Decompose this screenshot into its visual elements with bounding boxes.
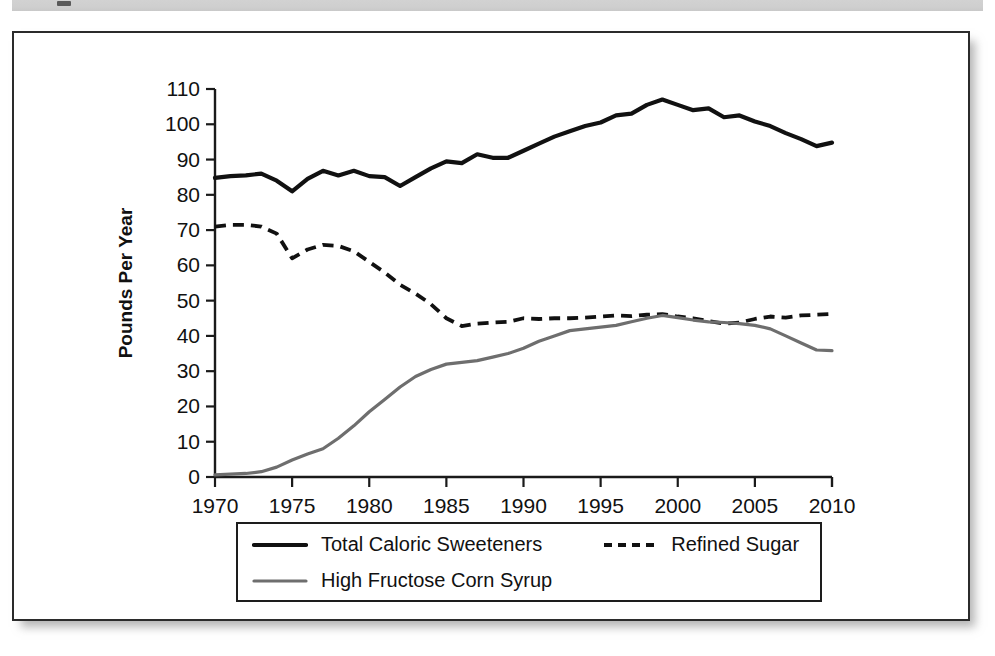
legend-label-high-fructose-corn-syrup: High Fructose Corn Syrup — [321, 569, 552, 592]
legend-row-bottom: High Fructose Corn Syrup — [252, 569, 552, 592]
x-tick-label: 2010 — [809, 494, 856, 517]
y-tick-label: 70 — [177, 218, 200, 241]
x-tick-label: 1975 — [269, 494, 316, 517]
cut-off-header-band — [12, 0, 983, 11]
legend-row-top: Total Caloric Sweeteners Refined Sugar — [252, 533, 799, 556]
x-tick-label: 1970 — [192, 494, 239, 517]
gray-line-icon — [252, 574, 308, 588]
y-tick-label: 50 — [177, 289, 200, 312]
y-tick-label: 110 — [167, 77, 200, 100]
series-line-high-fructose-corn-syrup — [215, 315, 832, 474]
legend-entry-high-fructose-corn-syrup[interactable]: High Fructose Corn Syrup — [252, 569, 552, 592]
header-band-mark — [57, 1, 71, 6]
y-tick-label: 0 — [188, 465, 200, 488]
y-tick-label: 10 — [177, 430, 200, 453]
x-tick-label: 2005 — [732, 494, 779, 517]
chart-legend: Total Caloric Sweeteners Refined Sugar H… — [236, 522, 822, 602]
legend-entry-total-caloric-sweeteners[interactable]: Total Caloric Sweeteners — [252, 533, 542, 556]
legend-entry-refined-sugar[interactable]: Refined Sugar — [602, 533, 799, 556]
x-tick-label: 1990 — [500, 494, 547, 517]
y-tick-label: 40 — [177, 324, 200, 347]
x-tick-label: 1995 — [577, 494, 624, 517]
series-line-total-caloric-sweeteners — [215, 100, 832, 192]
solid-line-icon — [252, 538, 308, 552]
dashed-line-icon — [602, 538, 658, 552]
x-tick-label: 1980 — [346, 494, 393, 517]
y-tick-label: 80 — [177, 183, 200, 206]
axes-group — [215, 89, 832, 477]
y-tick-label: 100 — [165, 112, 200, 135]
data-series-group — [215, 100, 832, 475]
y-axis-title-text: Pounds Per Year — [115, 207, 136, 358]
x-tick-label: 1985 — [423, 494, 470, 517]
x-tick-label: 2000 — [654, 494, 701, 517]
y-tick-label: 90 — [177, 148, 200, 171]
legend-label-total-caloric-sweeteners: Total Caloric Sweeteners — [321, 533, 542, 556]
x-tick-group: 197019751980198519901995200020052010 — [192, 477, 856, 517]
y-tick-label: 20 — [177, 394, 200, 417]
y-axis-title: Pounds Per Year — [115, 207, 136, 358]
figure-frame: Pounds Per Year 010203040506070809010011… — [12, 31, 970, 621]
legend-label-refined-sugar: Refined Sugar — [671, 533, 799, 556]
series-line-refined-sugar — [215, 225, 832, 326]
y-tick-label: 60 — [177, 253, 200, 276]
y-tick-group: 0102030405060708090100110 — [165, 77, 215, 488]
y-tick-label: 30 — [177, 359, 200, 382]
